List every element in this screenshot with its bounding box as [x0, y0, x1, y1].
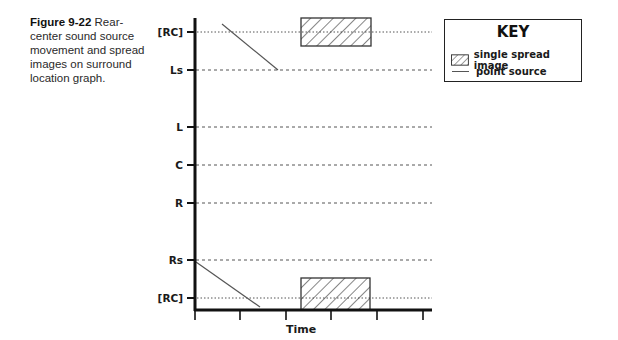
x-axis-label: Time [286, 323, 316, 336]
gridlines [190, 32, 432, 298]
label-ls: Ls [170, 64, 183, 76]
spread-image-bottom [301, 278, 370, 310]
thin-line-icon [452, 71, 469, 72]
label-l: L [176, 121, 183, 133]
label-rs: Rs [169, 254, 183, 266]
point-source-path-bottom [196, 262, 260, 307]
legend-item-point-source: point source [451, 66, 546, 77]
legend-key: KEY single spread image point source [444, 19, 582, 82]
point-source-path-top [222, 24, 278, 70]
legend-title: KEY [445, 23, 581, 41]
label-r: R [175, 197, 183, 209]
label-rc-top: [RC] [158, 26, 183, 38]
spread-image-top [301, 18, 371, 46]
label-c: C [175, 159, 183, 171]
legend-label-point-source: point source [476, 66, 546, 77]
label-rc-bottom: [RC] [158, 292, 183, 304]
hatched-box-icon [451, 54, 469, 66]
